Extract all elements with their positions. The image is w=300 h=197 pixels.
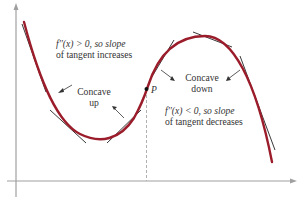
inflection-point-label: P [151,84,157,95]
concave-up-line1: Concave [74,86,114,97]
inflection-point [145,87,149,91]
arrow-right-icon [290,179,297,184]
arrow-concave-down-right [228,70,240,79]
concave-down-explanation: f′′(x) < 0, so slope of tangent decrease… [165,105,243,127]
arrow-up-icon [14,3,19,10]
concavity-diagram [0,0,300,197]
slope-decreases-text: of tangent decreases [165,116,243,127]
slope-increases-text: of tangent increases [56,49,132,60]
concave-up-line2: up [74,97,114,108]
concave-down-line2: down [180,83,224,94]
arrow-head-icon [58,88,64,93]
arrow-head-icon [226,76,231,81]
second-derivative-positive-text: f′′(x) > 0, so slope [56,38,132,49]
tangent-bottom-left [50,110,86,143]
concave-down-label: Concave down [180,72,224,94]
arrow-concave-up-right [114,108,124,118]
second-derivative-negative-text: f′′(x) < 0, so slope [165,105,243,116]
arrow-head-icon [170,76,175,81]
concave-up-label: Concave up [74,86,114,108]
concave-up-explanation: f′′(x) > 0, so slope of tangent increase… [56,38,132,60]
concave-down-line1: Concave [180,72,224,83]
